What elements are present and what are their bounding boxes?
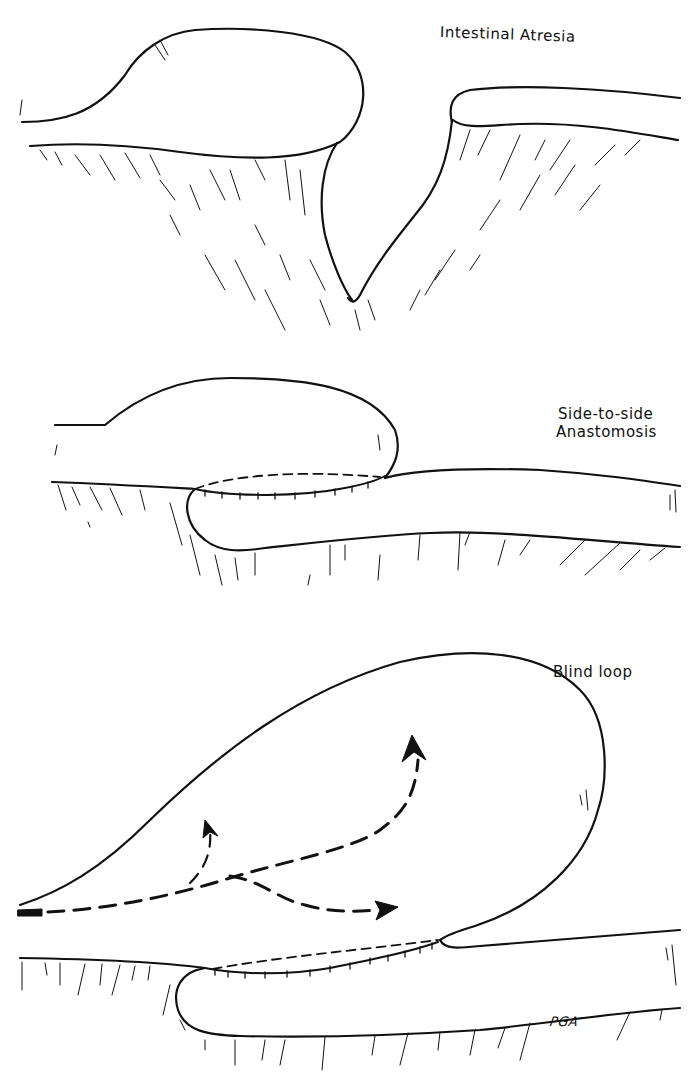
anastomosis-suture-line-3 <box>205 942 438 973</box>
proximal-limb-curve <box>176 968 680 1037</box>
arrowhead-right <box>375 901 398 920</box>
proximal-bowel-outline <box>22 29 363 158</box>
distal-bowel-outline <box>451 87 680 122</box>
flow-arrow-small-up <box>190 830 210 883</box>
anastomosis-suture-line <box>195 476 385 495</box>
anastomosis-hidden-edge-3 <box>213 940 438 969</box>
blind-loop-outline <box>20 653 605 940</box>
intestinal-atresia-diagram: Intestinal Atresia Side-to-side Anastomo… <box>0 0 695 1074</box>
flow-arrow-main-dashed <box>22 760 418 912</box>
mesentery-gap-v <box>348 120 452 302</box>
panel-label-anastomosis: Anastomosis <box>556 423 657 441</box>
mesentery-hatching-2 <box>55 435 676 585</box>
mesentery-hatching-1 <box>20 40 640 330</box>
suture-ticks-2 <box>205 482 368 499</box>
proximal-mesentery-edge <box>322 143 352 300</box>
arrowhead-up-large <box>402 735 426 762</box>
proximal-limb-upper <box>20 958 205 968</box>
diagram-canvas <box>0 0 695 1074</box>
panel-atresia <box>20 29 680 330</box>
artist-initials: PGA <box>548 1013 579 1031</box>
proximal-segment-lower <box>52 482 195 489</box>
panel-label-blind-loop: Blind loop <box>553 663 632 681</box>
proximal-segment-outline <box>55 378 398 478</box>
flow-arrow-right-dashed <box>230 876 378 911</box>
panel-blind-loop <box>18 653 680 1070</box>
distal-segment-outline <box>385 469 680 486</box>
mesentery-hatching-3 <box>22 790 676 1070</box>
distal-segment-curve <box>187 489 680 550</box>
flow-start-marker <box>18 909 42 916</box>
distal-limb-upper <box>440 930 680 948</box>
panel-label-side-to-side: Side-to-side <box>558 405 653 423</box>
